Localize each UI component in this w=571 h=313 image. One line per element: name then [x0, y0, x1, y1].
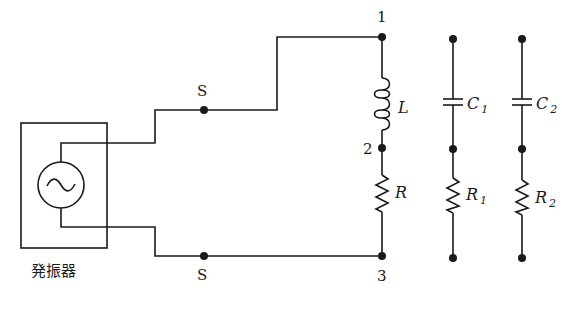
- switch-terminal-top[interactable]: [200, 106, 208, 114]
- branch1-terminal-mid[interactable]: [449, 145, 457, 153]
- switch-label-bottom: S: [197, 266, 207, 284]
- oscillator-label: 発振器: [31, 262, 76, 280]
- inductor-label: L: [397, 98, 409, 117]
- node-3-label: 3: [377, 267, 387, 285]
- capacitor-C2-label: C2: [536, 94, 557, 116]
- node-1-label: 1: [377, 8, 387, 26]
- branch2-terminal-bottom[interactable]: [518, 254, 526, 262]
- branch-c2-r2: C2 R2: [512, 35, 557, 262]
- resistor-R2-label: R2: [534, 188, 556, 210]
- oscillator-box: [21, 123, 107, 248]
- node-3[interactable]: [378, 252, 386, 260]
- capacitor-C1-label: C1: [467, 94, 488, 116]
- resistor-R1: [447, 178, 459, 213]
- resistor-R: [376, 175, 388, 212]
- node-2[interactable]: [378, 144, 386, 152]
- branch2-terminal-top[interactable]: [518, 35, 526, 43]
- node-2-label: 2: [363, 140, 373, 158]
- circuit-diagram: 発振器 S S 1 2 3 L R C1 R1: [0, 0, 571, 313]
- branch1-terminal-bottom[interactable]: [449, 254, 457, 262]
- node-1[interactable]: [378, 33, 386, 41]
- branch1-terminal-top[interactable]: [449, 35, 457, 43]
- switch-label-top: S: [197, 82, 207, 100]
- sine-wave-icon: [47, 179, 75, 191]
- resistor-R2: [516, 180, 528, 215]
- top-wire: [61, 37, 382, 162]
- resistor-label: R: [394, 183, 407, 202]
- bottom-wire: [61, 208, 382, 256]
- resistor-R1-label: R1: [465, 185, 487, 207]
- inductor-L: [375, 78, 390, 130]
- branch-c1-r1: C1 R1: [443, 35, 488, 262]
- switch-terminal-bottom[interactable]: [200, 252, 208, 260]
- branch2-terminal-mid[interactable]: [518, 145, 526, 153]
